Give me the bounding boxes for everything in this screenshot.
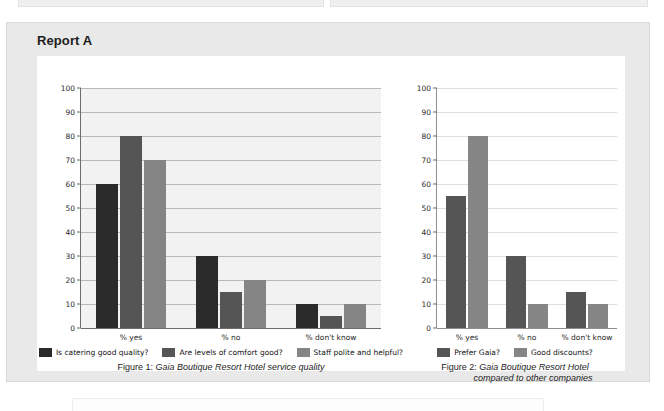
- x-axis-label-2: % don't know: [306, 333, 357, 342]
- y-tick-label-60: 60: [65, 180, 75, 189]
- y-tick-label-70: 70: [421, 156, 431, 165]
- bar-no-series-0: [196, 256, 218, 328]
- y-tick-label-10: 10: [65, 300, 75, 309]
- y-tick-mark-40: [77, 232, 81, 233]
- x-axis-label-1: % no: [222, 333, 241, 342]
- y-tick-mark-10: [433, 304, 437, 305]
- bar-don-t-know-series-1: [320, 316, 342, 328]
- y-tick-label-60: 60: [421, 180, 431, 189]
- y-tick-mark-30: [77, 256, 81, 257]
- bar-don-t-know-series-1: [588, 304, 608, 328]
- y-tick-label-0: 0: [70, 324, 75, 333]
- bar-don-t-know-series-2: [344, 304, 366, 328]
- page-title: Report A: [37, 33, 92, 48]
- y-tick-label-20: 20: [421, 276, 431, 285]
- charts-row: 0102030405060708090100 % yes% no% don't …: [37, 56, 625, 371]
- y-tick-label-50: 50: [65, 204, 75, 213]
- gridline-100: [81, 88, 381, 89]
- bar-no-series-1: [528, 304, 548, 328]
- caption-prefix-figure-1: Figure 1:: [117, 362, 153, 372]
- y-tick-mark-20: [77, 280, 81, 281]
- y-tick-mark-0: [77, 328, 81, 329]
- chart-figure-2: 0102030405060708090100 % yes% no% don't …: [405, 56, 625, 371]
- gridline-70: [437, 160, 617, 161]
- top-fragment-left: [18, 0, 324, 7]
- legend-swatch-icon-2: [297, 348, 310, 357]
- x-axis-label-2: % don't know: [562, 333, 613, 342]
- y-tick-label-50: 50: [421, 204, 431, 213]
- bar-no-series-1: [220, 292, 242, 328]
- legend-item-0: Is catering good quality?: [39, 348, 149, 357]
- y-tick-mark-70: [77, 160, 81, 161]
- y-tick-label-90: 90: [65, 108, 75, 117]
- y-tick-mark-80: [77, 136, 81, 137]
- gridline-80: [437, 136, 617, 137]
- y-tick-label-10: 10: [421, 300, 431, 309]
- legend-label-1: Are levels of comfort good?: [179, 348, 282, 357]
- bar-no-series-2: [244, 280, 266, 328]
- caption-text-figure-1: Gaia Boutique Resort Hotel service quali…: [155, 362, 324, 372]
- y-tick-label-40: 40: [65, 228, 75, 237]
- bar-don-t-know-series-0: [296, 304, 318, 328]
- y-tick-mark-30: [433, 256, 437, 257]
- y-tick-label-20: 20: [65, 276, 75, 285]
- y-tick-label-100: 100: [61, 84, 75, 93]
- bar-yes-series-2: [144, 160, 166, 328]
- y-tick-mark-50: [433, 208, 437, 209]
- bottom-fragment: [72, 398, 544, 411]
- y-tick-label-40: 40: [421, 228, 431, 237]
- y-tick-mark-50: [77, 208, 81, 209]
- bar-don-t-know-series-0: [566, 292, 586, 328]
- report-card: Report A 0102030405060708090100 % yes% n…: [6, 22, 650, 382]
- caption-text-figure-2: Gaia Boutique Resort Hotel: [479, 362, 589, 372]
- y-tick-mark-20: [433, 280, 437, 281]
- gridline-60: [437, 184, 617, 185]
- y-tick-label-70: 70: [65, 156, 75, 165]
- y-tick-label-30: 30: [421, 252, 431, 261]
- legend-swatch-icon-1: [162, 348, 175, 357]
- bar-yes-series-0: [446, 196, 466, 328]
- y-tick-mark-60: [77, 184, 81, 185]
- y-tick-label-90: 90: [421, 108, 431, 117]
- legend-label-2: Staff polite and helpful?: [314, 348, 403, 357]
- caption-figure-1: Figure 1: Gaia Boutique Resort Hotel ser…: [45, 362, 397, 373]
- gridline-90: [437, 112, 617, 113]
- gridline-100: [437, 88, 617, 89]
- y-tick-mark-0: [433, 328, 437, 329]
- legend-item-1: Good discounts?: [514, 348, 593, 357]
- caption-text2-figure-2: compared to other companies: [405, 373, 625, 384]
- y-tick-mark-90: [433, 112, 437, 113]
- legend-figure-1: Is catering good quality?Are levels of c…: [45, 348, 397, 357]
- bar-no-series-0: [506, 256, 526, 328]
- caption-figure-2: Figure 2: Gaia Boutique Resort Hotel com…: [405, 362, 625, 384]
- charts-panel: 0102030405060708090100 % yes% no% don't …: [37, 56, 625, 371]
- y-tick-label-0: 0: [426, 324, 431, 333]
- y-tick-label-80: 80: [65, 132, 75, 141]
- y-tick-mark-70: [433, 160, 437, 161]
- y-tick-mark-100: [77, 88, 81, 89]
- y-tick-label-80: 80: [421, 132, 431, 141]
- legend-swatch-icon-0: [39, 348, 52, 357]
- gridline-0: [81, 328, 381, 329]
- gridline-90: [81, 112, 381, 113]
- y-tick-mark-90: [77, 112, 81, 113]
- legend-item-2: Staff polite and helpful?: [297, 348, 403, 357]
- gridline-0: [437, 328, 617, 329]
- x-axis-label-1: % no: [518, 333, 537, 342]
- plot-area-figure-1: 0102030405060708090100 % yes% no% don't …: [81, 88, 381, 328]
- y-tick-mark-60: [433, 184, 437, 185]
- legend-swatch-icon-0: [437, 348, 450, 357]
- x-axis-label-0: % yes: [456, 333, 478, 342]
- bar-yes-series-1: [120, 136, 142, 328]
- y-tick-mark-80: [433, 136, 437, 137]
- bar-yes-series-0: [96, 184, 118, 328]
- y-tick-label-30: 30: [65, 252, 75, 261]
- top-fragment-right: [330, 0, 648, 7]
- x-axis-label-0: % yes: [120, 333, 142, 342]
- plot-area-figure-2: 0102030405060708090100 % yes% no% don't …: [437, 88, 617, 328]
- chart-figure-1: 0102030405060708090100 % yes% no% don't …: [45, 56, 397, 371]
- legend-figure-2: Prefer Gaia?Good discounts?: [405, 348, 625, 357]
- top-cutoff-strip: [0, 0, 664, 12]
- legend-label-0: Prefer Gaia?: [454, 348, 500, 357]
- y-tick-mark-10: [77, 304, 81, 305]
